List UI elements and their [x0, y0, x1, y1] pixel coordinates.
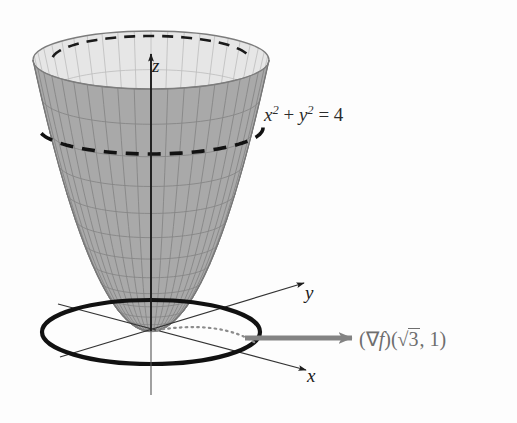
equation-x-exponent: 2: [272, 103, 278, 117]
gradient-close-paren: ): [384, 328, 391, 350]
nabla-icon: ∇: [366, 328, 379, 350]
gradient-arg-close-paren: ): [440, 328, 447, 350]
y-axis-label: y: [305, 283, 313, 302]
equation-y-exponent: 2: [307, 103, 313, 117]
gradient-arg-open-paren: (: [391, 328, 398, 350]
gradient-second-arg: 1: [430, 328, 440, 350]
equation-value: 4: [334, 104, 344, 125]
figure-container: z y x x2 + y2 = 4 (∇f)(√3, 1): [0, 0, 517, 423]
equation-plus-sign: +: [283, 104, 294, 125]
level-curve-equation-label: x2 + y2 = 4: [264, 104, 343, 124]
equation-equals-sign: =: [318, 104, 329, 125]
radicand-value: 3: [408, 328, 420, 349]
gradient-comma: ,: [420, 328, 425, 350]
paraboloid-figure-svg: [0, 0, 517, 423]
gradient-open-paren: (: [359, 328, 366, 350]
z-axis-label: z: [152, 56, 159, 75]
dotted-radius-arc: [151, 327, 257, 344]
x-axis-label: x: [307, 366, 315, 385]
square-root-icon: √3: [398, 327, 420, 349]
gradient-vector-label: (∇f)(√3, 1): [359, 327, 446, 349]
